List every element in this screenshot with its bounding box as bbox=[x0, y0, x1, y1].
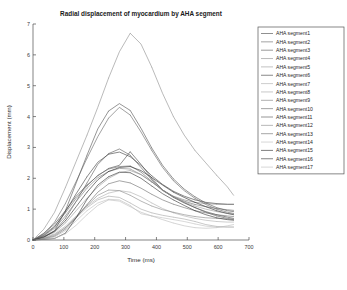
legend-panel[interactable]: AHA segment1AHA segment2AHA segment3AHA … bbox=[258, 27, 344, 174]
series-point bbox=[130, 110, 131, 111]
series-point bbox=[195, 210, 196, 211]
legend-label-3[interactable]: AHA segment3 bbox=[276, 47, 310, 53]
series-point bbox=[130, 182, 131, 183]
series-point bbox=[195, 204, 196, 205]
series-point bbox=[173, 199, 174, 200]
series-point bbox=[130, 192, 131, 193]
series-point bbox=[65, 187, 66, 188]
series-point bbox=[151, 215, 152, 216]
series-point bbox=[65, 218, 66, 219]
series-point bbox=[195, 221, 196, 222]
legend-label-12[interactable]: AHA segment12 bbox=[276, 122, 313, 128]
series-point bbox=[216, 215, 217, 216]
y-tick-label: 5 bbox=[27, 83, 30, 89]
series-point bbox=[108, 169, 109, 170]
series-point bbox=[173, 217, 174, 218]
series-point bbox=[65, 220, 66, 221]
series-point bbox=[216, 217, 217, 218]
series-point bbox=[65, 226, 66, 227]
legend-label-17[interactable]: AHA segment17 bbox=[276, 164, 313, 170]
legend-label-15[interactable]: AHA segment15 bbox=[276, 147, 313, 153]
y-tick-label: 7 bbox=[27, 21, 30, 27]
series-point bbox=[130, 166, 131, 167]
legend-label-2[interactable]: AHA segment2 bbox=[276, 39, 310, 45]
series-point bbox=[87, 188, 88, 189]
series-point bbox=[216, 221, 217, 222]
y-tick-label: 4 bbox=[27, 114, 30, 120]
series-point bbox=[195, 196, 196, 197]
series-point bbox=[65, 230, 66, 231]
series-point bbox=[173, 219, 174, 220]
series-point bbox=[87, 135, 88, 136]
series-point bbox=[216, 209, 217, 210]
series-point bbox=[195, 202, 196, 203]
series-point bbox=[195, 207, 196, 208]
series-point bbox=[173, 178, 174, 179]
series-point bbox=[151, 206, 152, 207]
series-point bbox=[108, 171, 109, 172]
y-tick-label: 6 bbox=[27, 52, 30, 58]
series-point bbox=[173, 191, 174, 192]
series-point bbox=[108, 178, 109, 179]
series-point bbox=[87, 192, 88, 193]
series-point bbox=[130, 195, 131, 196]
series-point bbox=[108, 118, 109, 119]
series-point bbox=[151, 179, 152, 180]
series-point bbox=[195, 227, 196, 228]
legend-label-9[interactable]: AHA segment9 bbox=[276, 97, 310, 103]
y-tick-label: 2 bbox=[27, 175, 30, 181]
series-point bbox=[108, 111, 109, 112]
series-point bbox=[65, 203, 66, 204]
line-chart: 010020030040050060070001234567Radial dis… bbox=[0, 0, 347, 290]
legend-label-11[interactable]: AHA segment11 bbox=[276, 114, 313, 120]
series-point bbox=[151, 186, 152, 187]
legend-label-16[interactable]: AHA segment16 bbox=[276, 156, 313, 162]
series-point bbox=[87, 210, 88, 211]
series-point bbox=[130, 169, 131, 170]
legend-label-8[interactable]: AHA segment8 bbox=[276, 89, 310, 95]
series-point bbox=[151, 175, 152, 176]
series-point bbox=[173, 192, 174, 193]
series-point bbox=[87, 182, 88, 183]
legend-label-5[interactable]: AHA segment5 bbox=[276, 64, 310, 70]
chart-title: Radial displacement of myocardium by AHA… bbox=[60, 10, 223, 18]
series-point bbox=[130, 156, 131, 157]
legend-label-10[interactable]: AHA segment10 bbox=[276, 106, 313, 112]
figure-canvas: 010020030040050060070001234567Radial dis… bbox=[0, 0, 347, 290]
series-point bbox=[173, 212, 174, 213]
series-point bbox=[130, 203, 131, 204]
series-point bbox=[173, 223, 174, 224]
series-point bbox=[195, 198, 196, 199]
series-point bbox=[65, 227, 66, 228]
legend-label-4[interactable]: AHA segment4 bbox=[276, 55, 310, 61]
x-tick-label: 700 bbox=[245, 244, 254, 250]
series-point bbox=[130, 206, 131, 207]
series-point bbox=[151, 212, 152, 213]
series-point bbox=[65, 233, 66, 234]
x-tick-label: 100 bbox=[59, 244, 68, 250]
series-point bbox=[130, 205, 131, 206]
series-point bbox=[130, 172, 131, 173]
series-point bbox=[151, 177, 152, 178]
series-point bbox=[108, 190, 109, 191]
legend-label-1[interactable]: AHA segment1 bbox=[276, 30, 310, 36]
series-point bbox=[151, 194, 152, 195]
series-point bbox=[151, 203, 152, 204]
y-tick-label: 3 bbox=[27, 144, 30, 150]
series-point bbox=[87, 214, 88, 215]
legend-label-6[interactable]: AHA segment6 bbox=[276, 72, 310, 78]
series-point bbox=[87, 155, 88, 156]
legend-label-13[interactable]: AHA segment13 bbox=[276, 131, 313, 137]
legend-label-14[interactable]: AHA segment14 bbox=[276, 139, 313, 145]
series-point bbox=[130, 155, 131, 156]
series-point bbox=[130, 151, 131, 152]
series-point bbox=[130, 115, 131, 116]
series-point bbox=[151, 182, 152, 183]
x-tick-label: 500 bbox=[183, 244, 192, 250]
series-point bbox=[173, 204, 174, 205]
series-point bbox=[87, 176, 88, 177]
series-point bbox=[151, 148, 152, 149]
series-point bbox=[216, 214, 217, 215]
legend-label-7[interactable]: AHA segment7 bbox=[276, 81, 310, 87]
series-point bbox=[65, 223, 66, 224]
